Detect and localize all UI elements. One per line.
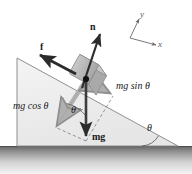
center-of-mass-dot — [83, 76, 89, 82]
friction-force-vector — [40, 55, 76, 74]
normal-force-label: n — [90, 22, 96, 32]
physics-figure: n f mg mg sin θ mg cos θ θ θ y x — [0, 0, 192, 174]
friction-force-label: f — [40, 42, 43, 52]
weight-label: mg — [92, 132, 105, 142]
mg-cos-theta-label: mg cos θ — [13, 101, 48, 111]
mg-sin-theta-label: mg sin θ — [116, 81, 150, 91]
axis-x-label: x — [158, 40, 162, 49]
figure-canvas — [0, 0, 192, 174]
theta-center-label: θ — [71, 105, 76, 115]
theta-base-label: θ — [147, 123, 152, 133]
axis-y-label: y — [140, 10, 144, 19]
ground-surface — [0, 146, 192, 174]
axis-x-line — [130, 38, 156, 45]
axis-y-line — [130, 19, 139, 38]
